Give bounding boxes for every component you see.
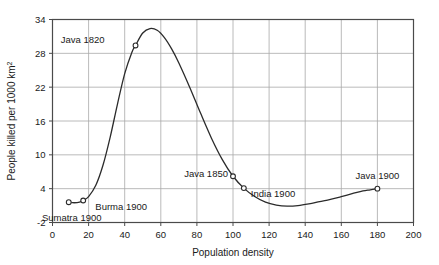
data-point-marker[interactable] — [133, 43, 138, 48]
y-axis-tick-labels: -241016222834 — [35, 14, 46, 228]
x-tick-label: 20 — [83, 229, 94, 240]
y-tick-label: 10 — [35, 149, 46, 160]
y-tick-label: 4 — [40, 183, 45, 194]
data-point-marker[interactable] — [81, 198, 86, 203]
data-point-label: Java 1900 — [355, 170, 399, 181]
x-tick-label: 180 — [369, 229, 385, 240]
x-tick-label: 80 — [192, 229, 203, 240]
x-axis-tick-labels: 020406080100120140160180200 — [50, 229, 422, 240]
y-tick-label: 16 — [35, 116, 46, 127]
data-point-marker[interactable] — [231, 174, 236, 179]
y-axis-title-superscript: 2 — [6, 61, 13, 65]
data-point-marker[interactable] — [66, 200, 71, 205]
data-point-marker[interactable] — [375, 186, 380, 191]
y-axis-title: People killed per 1000 km2 — [6, 61, 18, 180]
y-tick-label: 34 — [35, 14, 46, 25]
data-point-label: Burma 1900 — [95, 201, 147, 212]
y-tick-label: 28 — [35, 48, 46, 59]
y-axis-title-base: People killed per 1000 km — [6, 65, 17, 180]
y-axis-title-text: People killed per 1000 km2 — [6, 61, 18, 180]
x-tick-label: 200 — [406, 229, 422, 240]
x-tick-label: 120 — [261, 229, 277, 240]
data-point-label: Java 1850 — [184, 168, 228, 179]
x-tick-label: 140 — [297, 229, 313, 240]
data-point-label: Java 1820 — [61, 34, 105, 45]
x-tick-label: 40 — [119, 229, 130, 240]
y-tick-label: 22 — [35, 82, 46, 93]
data-point-marker[interactable] — [241, 186, 246, 191]
x-tick-label: 60 — [156, 229, 167, 240]
x-axis-title: Population density — [192, 247, 274, 258]
data-point-label: India 1900 — [251, 188, 295, 199]
x-tick-label: 160 — [333, 229, 349, 240]
chart-container: 020406080100120140160180200 -24101622283… — [0, 0, 439, 265]
x-tick-label: 0 — [50, 229, 55, 240]
population-density-line-chart: 020406080100120140160180200 -24101622283… — [0, 0, 439, 265]
x-axis-title-text: Population density — [192, 247, 274, 258]
x-tick-label: 100 — [225, 229, 241, 240]
data-point-label: Sumatra 1900 — [42, 212, 102, 223]
